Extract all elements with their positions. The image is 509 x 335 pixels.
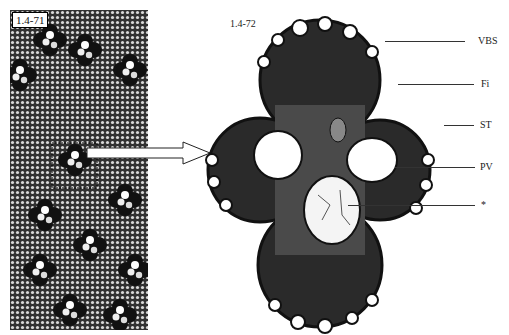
annotation-star: * bbox=[481, 199, 486, 210]
annotation-fi: Fi bbox=[481, 78, 489, 89]
vascular-bundle-illustration bbox=[200, 10, 440, 335]
leader-line-vbs bbox=[385, 41, 465, 42]
leader-line-pv bbox=[395, 167, 475, 168]
annotation-pv: PV bbox=[480, 161, 493, 172]
figure-label-left: 1.4-71 bbox=[12, 12, 48, 28]
annotation-vbs: VBS bbox=[478, 35, 497, 46]
leader-line-st bbox=[444, 125, 474, 126]
leader-line-star bbox=[348, 205, 475, 206]
annotation-st: ST bbox=[480, 119, 492, 130]
leader-line-fi bbox=[398, 84, 474, 85]
magnification-arrow-icon bbox=[85, 140, 215, 180]
